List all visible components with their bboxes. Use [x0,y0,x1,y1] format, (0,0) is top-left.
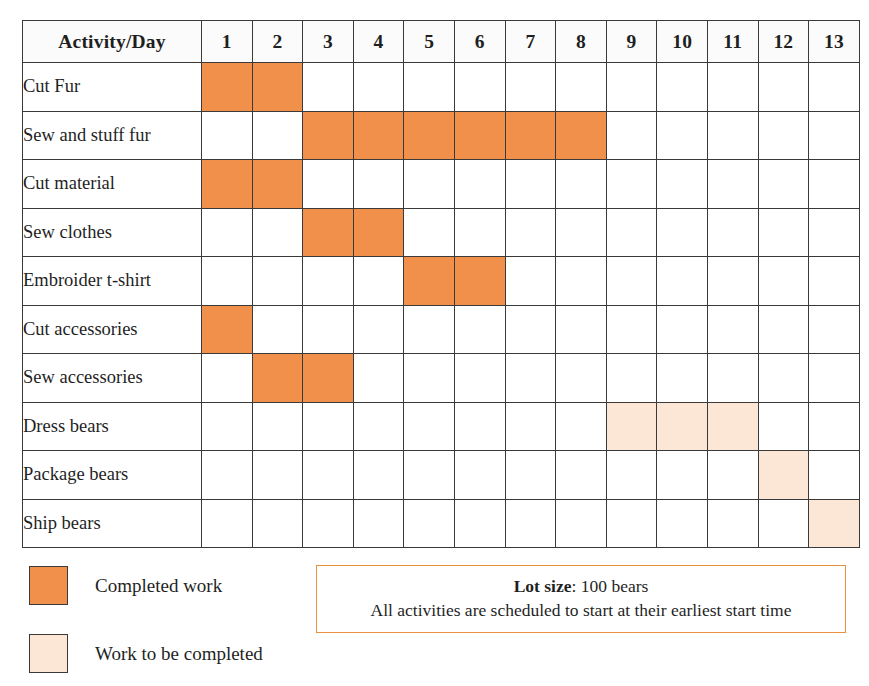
schedule-cell [353,63,404,112]
schedule-cell [404,160,455,209]
table-row: Ship bears [23,499,860,548]
schedule-cell [556,305,607,354]
schedule-cell [758,305,809,354]
schedule-cell [353,354,404,403]
activity-label: Sew clothes [23,208,202,257]
schedule-cell [707,160,758,209]
schedule-cell [707,208,758,257]
day-header-5: 5 [404,21,455,63]
schedule-cell [252,208,303,257]
schedule-cell [454,354,505,403]
schedule-cell [809,305,860,354]
schedule-cell [404,257,455,306]
schedule-cell [303,499,354,548]
activity-label: Cut material [23,160,202,209]
day-header-3: 3 [303,21,354,63]
day-header-7: 7 [505,21,556,63]
schedule-cell [809,402,860,451]
schedule-cell [454,402,505,451]
table-row: Cut accessories [23,305,860,354]
schedule-cell [202,499,253,548]
schedule-cell [556,63,607,112]
schedule-cell [657,160,708,209]
schedule-cell [657,354,708,403]
schedule-cell [303,208,354,257]
table-row: Dress bears [23,402,860,451]
legend-item-done: Completed work [29,563,319,608]
legend: Completed workWork to be completed [29,563,319,686]
schedule-cell [404,305,455,354]
schedule-cell [353,208,404,257]
schedule-cell [404,354,455,403]
schedule-cell [707,402,758,451]
schedule-cell [353,402,404,451]
schedule-cell [252,451,303,500]
table-row: Package bears [23,451,860,500]
header-row: Activity/Day 12345678910111213 [23,21,860,63]
schedule-table: Activity/Day 12345678910111213 Cut FurSe… [22,20,860,548]
activity-label: Sew accessories [23,354,202,403]
schedule-cell [606,257,657,306]
schedule-cell [252,63,303,112]
schedule-cell [505,208,556,257]
legend-item-todo: Work to be completed [29,631,319,676]
schedule-cell [202,451,253,500]
schedule-cell [252,354,303,403]
schedule-cell [606,305,657,354]
note-lot-size-label: Lot size [514,576,572,596]
schedule-cell [556,451,607,500]
schedule-cell [657,402,708,451]
day-header-6: 6 [454,21,505,63]
day-header-4: 4 [353,21,404,63]
day-header-10: 10 [657,21,708,63]
schedule-cell [404,402,455,451]
schedule-cell [303,402,354,451]
table-row: Sew and stuff fur [23,111,860,160]
schedule-cell [252,499,303,548]
table-body: Cut FurSew and stuff furCut materialSew … [23,63,860,548]
schedule-cell [606,354,657,403]
schedule-cell [252,257,303,306]
schedule-cell [454,63,505,112]
schedule-cell [707,354,758,403]
schedule-cell [606,160,657,209]
schedule-cell [404,63,455,112]
note-line-schedule: All activities are scheduled to start at… [327,598,835,622]
schedule-cell [657,499,708,548]
schedule-cell [758,257,809,306]
schedule-cell [404,111,455,160]
schedule-cell [303,305,354,354]
schedule-cell [809,257,860,306]
schedule-cell [454,160,505,209]
schedule-cell [505,63,556,112]
schedule-cell [707,499,758,548]
schedule-cell [303,63,354,112]
table-row: Sew clothes [23,208,860,257]
schedule-cell [556,160,607,209]
schedule-cell [202,63,253,112]
activity-label: Cut accessories [23,305,202,354]
schedule-cell [758,208,809,257]
schedule-cell [809,451,860,500]
schedule-cell [657,111,708,160]
schedule-cell [606,208,657,257]
schedule-cell [758,402,809,451]
schedule-cell [657,305,708,354]
day-header-11: 11 [707,21,758,63]
schedule-cell [202,208,253,257]
schedule-cell [252,305,303,354]
table-header: Activity/Day 12345678910111213 [23,21,860,63]
schedule-cell [404,499,455,548]
day-header-12: 12 [758,21,809,63]
day-header-1: 1 [202,21,253,63]
schedule-cell [404,208,455,257]
activity-label: Sew and stuff fur [23,111,202,160]
activity-day-header: Activity/Day [23,21,202,63]
schedule-cell [353,257,404,306]
schedule-cell [454,499,505,548]
table-row: Sew accessories [23,354,860,403]
schedule-cell [454,111,505,160]
schedule-cell [809,354,860,403]
schedule-cell [707,63,758,112]
schedule-cell [657,208,708,257]
